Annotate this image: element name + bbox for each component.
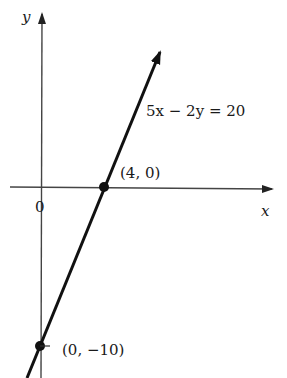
- y-axis: [41, 14, 42, 378]
- x-intercept-label: (4, 0): [120, 164, 160, 182]
- equation-line: [27, 52, 160, 378]
- x-axis: [10, 187, 272, 189]
- equation-label: 5x − 2y = 20: [146, 102, 245, 120]
- x-intercept-point: [99, 182, 109, 192]
- x-axis-label: x: [261, 202, 270, 220]
- origin-label: 0: [35, 198, 45, 216]
- y-axis-label: y: [21, 8, 31, 26]
- graph-canvas: y x 0 5x − 2y = 20 (4, 0) (0, −10): [0, 0, 287, 378]
- y-intercept-label: (0, −10): [62, 341, 124, 359]
